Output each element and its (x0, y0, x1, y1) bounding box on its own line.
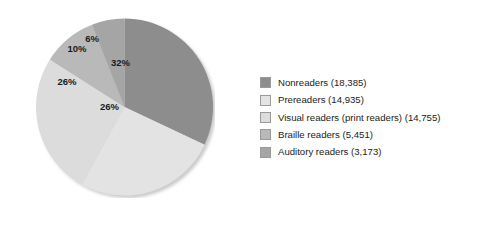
legend-label-prereaders: Prereaders (14,935) (278, 95, 364, 105)
pie-slice-label-braille-readers: 10% (67, 43, 87, 54)
pie-slice-label-auditory-readers: 6% (85, 33, 99, 44)
legend-label-auditory-readers: Auditory readers (3,173) (278, 147, 381, 157)
legend-item-visual-readers: Visual readers (print readers) (14,755) (260, 109, 476, 126)
legend-swatch-prereaders (260, 95, 271, 106)
legend-swatch-visual-readers (260, 112, 271, 123)
legend-item-nonreaders: Nonreaders (18,385) (260, 74, 476, 91)
pie-chart-figure: 32% 26% 26% 10% 6% Nonreaders (18,385) P… (0, 0, 480, 234)
legend-item-auditory-readers: Auditory readers (3,173) (260, 144, 476, 161)
chart-legend: Nonreaders (18,385) Prereaders (14,935) … (260, 74, 476, 161)
pie-slice-label-prereaders: 26% (100, 101, 120, 112)
legend-swatch-auditory-readers (260, 147, 271, 158)
pie-slices-group (36, 19, 213, 196)
legend-label-nonreaders: Nonreaders (18,385) (278, 78, 367, 88)
legend-item-prereaders: Prereaders (14,935) (260, 91, 476, 108)
pie-slice-label-visual-readers: 26% (57, 76, 77, 87)
pie-slice-label-nonreaders: 32% (111, 57, 131, 68)
legend-label-braille-readers: Braille readers (5,451) (278, 130, 373, 140)
legend-label-visual-readers: Visual readers (print readers) (14,755) (278, 113, 440, 123)
legend-swatch-nonreaders (260, 77, 271, 88)
pie-chart-plot-area: 32% 26% 26% 10% 6% (36, 18, 215, 198)
pie-chart-svg: 32% 26% 26% 10% 6% (36, 18, 215, 198)
legend-swatch-braille-readers (260, 129, 271, 140)
legend-item-braille-readers: Braille readers (5,451) (260, 126, 476, 143)
